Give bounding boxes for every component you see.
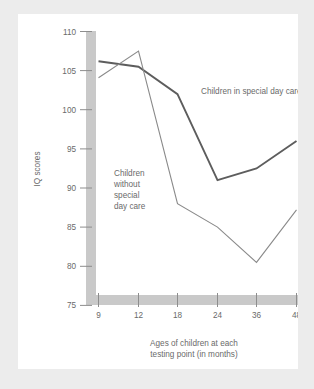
x-axis-tick-labels: 9 12 18 24 36 48 xyxy=(96,311,298,320)
iq-scores-line-chart: 110 105 100 95 90 85 80 75 xyxy=(18,14,298,369)
y-tick-label: 100 xyxy=(62,106,76,115)
data-series-layer xyxy=(99,51,297,262)
chart-page: 110 105 100 95 90 85 80 75 xyxy=(0,0,314,389)
x-axis-caption-line: Ages of children at each xyxy=(150,339,238,348)
y-tick-label: 75 xyxy=(67,301,77,310)
x-tick-label: 18 xyxy=(173,311,183,320)
y-tick-label: 95 xyxy=(67,145,77,154)
x-tick-label: 24 xyxy=(213,311,223,320)
y-axis-title: IQ scores xyxy=(33,151,42,186)
x-tick-label: 12 xyxy=(134,311,144,320)
x-tick-label: 36 xyxy=(252,311,262,320)
chart-plot-area: 110 105 100 95 90 85 80 75 xyxy=(18,14,298,369)
annotation-special-day-care: Children in special day care xyxy=(201,87,298,96)
y-tick-label: 90 xyxy=(67,184,77,193)
y-tick-label: 85 xyxy=(67,223,77,232)
x-axis-caption: Ages of children at each testing point (… xyxy=(150,339,238,359)
y-tick-label: 105 xyxy=(62,67,76,76)
annotation-line: without xyxy=(113,180,141,189)
annotation-without-special-day-care: Children without special day care xyxy=(113,169,146,211)
x-tick-label: 9 xyxy=(96,311,101,320)
chart-card: 110 105 100 95 90 85 80 75 xyxy=(18,14,298,369)
x-tick-label: 48 xyxy=(292,311,298,320)
annotation-line: Children xyxy=(114,169,145,178)
axis-band xyxy=(86,31,298,305)
series-line-without-special-day-care xyxy=(99,51,297,262)
annotation-line: special xyxy=(114,191,140,200)
annotation-line: day care xyxy=(114,202,146,211)
y-axis-tick-labels: 110 105 100 95 90 85 80 75 xyxy=(62,28,76,311)
x-axis-caption-line: testing point (in months) xyxy=(150,350,238,359)
y-tick-label: 110 xyxy=(63,28,76,37)
y-tick-label: 80 xyxy=(67,262,77,271)
series-line-special-day-care xyxy=(99,61,297,180)
